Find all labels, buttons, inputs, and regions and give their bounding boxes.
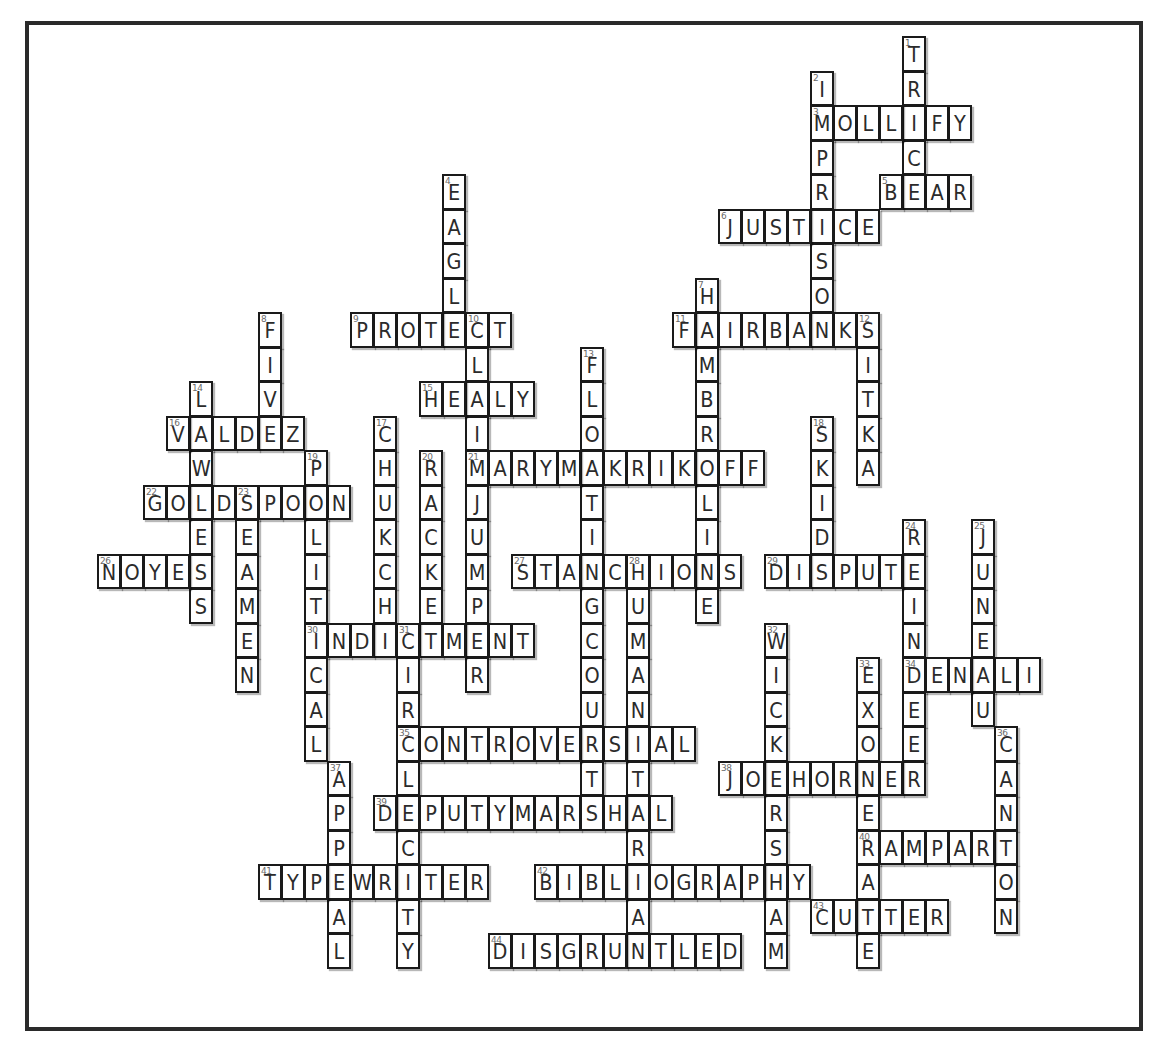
crossword-cell[interactable]: A xyxy=(764,899,788,935)
crossword-cell[interactable]: C xyxy=(580,623,604,659)
crossword-cell[interactable]: 27S xyxy=(511,554,535,590)
crossword-cell[interactable]: A xyxy=(718,864,742,900)
crossword-cell[interactable]: O xyxy=(580,416,604,452)
crossword-cell[interactable]: C xyxy=(603,554,627,590)
crossword-cell[interactable]: A xyxy=(235,554,259,590)
crossword-cell[interactable]: M xyxy=(902,830,926,866)
crossword-cell[interactable]: L xyxy=(879,105,903,141)
crossword-cell[interactable]: Y xyxy=(488,795,512,831)
crossword-cell[interactable]: T xyxy=(649,933,673,969)
crossword-cell[interactable]: O xyxy=(649,864,673,900)
crossword-cell[interactable]: R xyxy=(465,864,489,900)
crossword-cell[interactable]: T xyxy=(488,312,512,348)
crossword-cell[interactable]: E xyxy=(235,623,259,659)
crossword-cell[interactable]: E xyxy=(557,726,581,762)
crossword-cell[interactable]: C xyxy=(373,554,397,590)
crossword-cell[interactable]: A xyxy=(626,899,650,935)
crossword-cell[interactable]: O xyxy=(833,105,857,141)
crossword-cell[interactable]: P xyxy=(741,864,765,900)
crossword-cell[interactable]: A xyxy=(534,795,558,831)
crossword-cell[interactable]: L xyxy=(672,726,696,762)
crossword-cell[interactable]: E xyxy=(695,933,719,969)
crossword-cell[interactable]: E xyxy=(902,726,926,762)
crossword-cell[interactable]: U xyxy=(442,795,466,831)
crossword-cell[interactable]: C xyxy=(304,657,328,693)
crossword-cell[interactable]: I xyxy=(787,554,811,590)
crossword-cell[interactable]: 4E xyxy=(442,174,466,210)
crossword-cell[interactable]: U xyxy=(603,933,627,969)
crossword-cell[interactable]: E xyxy=(396,795,420,831)
crossword-cell[interactable]: M xyxy=(442,623,466,659)
crossword-cell[interactable]: N xyxy=(626,933,650,969)
crossword-cell[interactable]: O xyxy=(810,278,834,314)
crossword-cell[interactable]: T xyxy=(879,899,903,935)
crossword-cell[interactable]: U xyxy=(971,692,995,728)
crossword-cell[interactable]: I xyxy=(902,588,926,624)
crossword-cell[interactable]: C xyxy=(833,209,857,245)
crossword-cell[interactable]: O xyxy=(396,312,420,348)
crossword-cell[interactable]: E xyxy=(902,692,926,728)
crossword-cell[interactable]: N xyxy=(442,726,466,762)
crossword-cell[interactable]: K xyxy=(764,726,788,762)
crossword-cell[interactable]: B xyxy=(695,381,719,417)
crossword-cell[interactable]: E xyxy=(856,933,880,969)
crossword-cell[interactable]: 44D xyxy=(488,933,512,969)
crossword-cell[interactable]: E xyxy=(258,416,282,452)
crossword-cell[interactable]: Y xyxy=(396,933,420,969)
crossword-cell[interactable]: L xyxy=(994,657,1018,693)
crossword-cell[interactable]: 15H xyxy=(419,381,443,417)
crossword-cell[interactable]: E xyxy=(695,588,719,624)
crossword-cell[interactable]: I xyxy=(856,347,880,383)
crossword-cell[interactable]: W xyxy=(350,864,374,900)
crossword-cell[interactable]: A xyxy=(442,209,466,245)
crossword-cell[interactable]: 33E xyxy=(856,657,880,693)
crossword-cell[interactable]: K xyxy=(856,416,880,452)
crossword-cell[interactable]: I xyxy=(764,657,788,693)
crossword-cell[interactable]: 17C xyxy=(373,416,397,452)
crossword-cell[interactable]: P xyxy=(327,830,351,866)
crossword-cell[interactable]: 34D xyxy=(902,657,926,693)
crossword-cell[interactable]: E xyxy=(856,795,880,831)
crossword-cell[interactable]: C xyxy=(902,140,926,176)
crossword-cell[interactable]: 8F xyxy=(258,312,282,348)
crossword-cell[interactable]: P xyxy=(419,795,443,831)
crossword-cell[interactable]: T xyxy=(419,864,443,900)
crossword-cell[interactable]: T xyxy=(465,795,489,831)
crossword-cell[interactable]: K xyxy=(810,450,834,486)
crossword-cell[interactable]: R xyxy=(695,416,719,452)
crossword-cell[interactable]: T xyxy=(994,830,1018,866)
crossword-cell[interactable]: E xyxy=(235,519,259,555)
crossword-cell[interactable]: O xyxy=(741,761,765,797)
crossword-cell[interactable]: O xyxy=(166,485,190,521)
crossword-cell[interactable]: R xyxy=(695,864,719,900)
crossword-cell[interactable]: 21M xyxy=(465,450,489,486)
crossword-cell[interactable]: 24R xyxy=(902,519,926,555)
crossword-cell[interactable]: A xyxy=(695,312,719,348)
crossword-cell[interactable]: E xyxy=(189,519,213,555)
crossword-cell[interactable]: O xyxy=(810,761,834,797)
crossword-cell[interactable]: P xyxy=(465,588,489,624)
crossword-cell[interactable]: O xyxy=(994,864,1018,900)
crossword-cell[interactable]: M xyxy=(557,450,581,486)
crossword-cell[interactable]: R xyxy=(902,761,926,797)
crossword-cell[interactable]: Y xyxy=(511,381,535,417)
crossword-cell[interactable]: R xyxy=(902,71,926,107)
crossword-cell[interactable]: L xyxy=(304,726,328,762)
crossword-cell[interactable]: L xyxy=(488,381,512,417)
crossword-cell[interactable]: N xyxy=(994,795,1018,831)
crossword-cell[interactable]: K xyxy=(833,312,857,348)
crossword-cell[interactable]: C xyxy=(419,519,443,555)
crossword-cell[interactable]: G xyxy=(442,243,466,279)
crossword-cell[interactable]: L xyxy=(212,416,236,452)
crossword-cell[interactable]: I xyxy=(810,209,834,245)
crossword-cell[interactable]: O xyxy=(856,726,880,762)
crossword-cell[interactable]: M xyxy=(626,623,650,659)
crossword-cell[interactable]: L xyxy=(304,519,328,555)
crossword-cell[interactable]: V xyxy=(534,726,558,762)
crossword-cell[interactable]: K xyxy=(672,450,696,486)
crossword-cell[interactable]: O xyxy=(580,657,604,693)
crossword-cell[interactable]: R xyxy=(373,312,397,348)
crossword-cell[interactable]: E xyxy=(902,899,926,935)
crossword-cell[interactable]: A xyxy=(856,864,880,900)
crossword-cell[interactable]: D xyxy=(718,933,742,969)
